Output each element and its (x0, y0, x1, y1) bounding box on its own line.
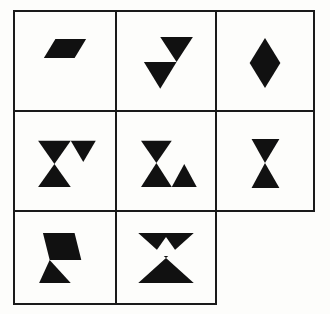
shape-matrix-grid (13, 10, 315, 305)
figure-parallelogram (15, 12, 115, 110)
matrix-cell-r2c1[interactable] (13, 110, 117, 212)
figure-wide-hourglass-with-notch (117, 212, 215, 303)
matrix-cell-r2c3[interactable] (215, 110, 315, 212)
matrix-cell-r3c2[interactable] (115, 210, 217, 305)
figure-hourglass-with-right-triangle (15, 112, 115, 210)
matrix-cell-r1c2[interactable] (115, 10, 217, 112)
matrix-puzzle-page (0, 0, 330, 314)
figure-vertical-diamond (217, 12, 313, 110)
matrix-cell-r1c3[interactable] (215, 10, 315, 112)
figure-two-down-triangles-offset (117, 12, 215, 110)
figure-parallelogram-over-triangle (15, 212, 115, 303)
matrix-cell-r3c1[interactable] (13, 210, 117, 305)
matrix-cell-r3c3-missing[interactable] (215, 210, 315, 305)
figure-hourglass (217, 112, 313, 210)
matrix-cell-r1c1[interactable] (13, 10, 117, 112)
matrix-cell-r2c2[interactable] (115, 110, 217, 212)
figure-hourglass-with-right-up-triangle (117, 112, 215, 210)
